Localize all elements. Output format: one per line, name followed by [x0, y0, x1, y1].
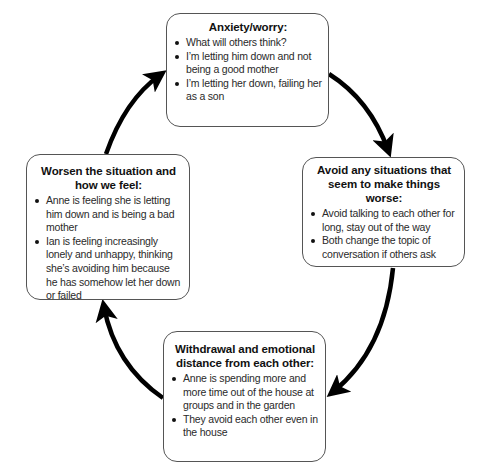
node-bullet-list: What will others think? I’m letting him … — [174, 36, 322, 104]
list-item: Both change the topic of conversation if… — [310, 234, 458, 261]
list-item: They avoid each other even in the house — [171, 413, 319, 440]
node-title: Anxiety/worry: — [174, 20, 322, 34]
bullet-icon — [311, 239, 315, 243]
node-title: Avoid any situations that seem to make t… — [310, 163, 458, 205]
bullet-icon — [175, 41, 179, 45]
list-item: Anne is feeling she is letting him down … — [34, 194, 183, 235]
bullet-icon — [311, 212, 315, 216]
bullet-icon — [172, 418, 176, 422]
arrow-left-to-top — [106, 75, 160, 154]
node-anxiety-worry: Anxiety/worry: What will others think? I… — [166, 13, 329, 127]
arrow-right-to-bottom — [333, 268, 393, 392]
bullet-icon — [35, 240, 39, 244]
list-item: I’m letting her down, failing her as a s… — [174, 77, 322, 104]
node-bullet-list: Anne is feeling she is letting him down … — [34, 194, 183, 303]
node-title: Worsen the situation and how we feel: — [34, 164, 183, 192]
list-item: Anne is spending more and more time out … — [171, 372, 319, 413]
list-item: Avoid talking to each other for long, st… — [310, 207, 458, 234]
bullet-icon — [35, 199, 39, 203]
list-item: What will others think? — [174, 36, 322, 50]
node-withdrawal: Withdrawal and emotional distance from e… — [163, 331, 326, 462]
bullet-icon — [175, 55, 179, 59]
node-bullet-list: Avoid talking to each other for long, st… — [310, 207, 458, 261]
bullet-icon — [175, 82, 179, 86]
arrow-bottom-to-left — [104, 307, 163, 398]
node-worsen-situation: Worsen the situation and how we feel: An… — [26, 154, 190, 300]
arrow-top-to-right — [329, 74, 388, 150]
node-title: Withdrawal and emotional distance from e… — [171, 342, 319, 370]
bullet-icon — [172, 377, 176, 381]
node-avoid-situations: Avoid any situations that seem to make t… — [302, 157, 465, 267]
list-item: Ian is feeling increasingly lonely and u… — [34, 235, 183, 303]
list-item: I’m letting him down and not being a goo… — [174, 50, 322, 77]
node-bullet-list: Anne is spending more and more time out … — [171, 372, 319, 440]
